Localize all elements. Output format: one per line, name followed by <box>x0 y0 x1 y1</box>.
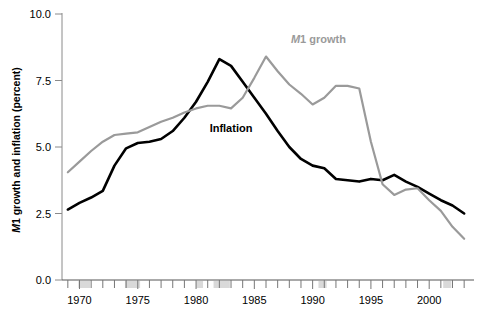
y-tick-label: 5.0 <box>36 141 51 153</box>
line-chart: 0.02.55.07.510.0 19701975198019851990199… <box>0 0 494 322</box>
x-tick-label: 1980 <box>184 294 208 306</box>
plot-axes <box>62 13 474 280</box>
recession-band <box>196 281 203 288</box>
recession-band <box>318 281 326 288</box>
x-tick-label: 1985 <box>242 294 266 306</box>
x-tick-label: 1990 <box>300 294 324 306</box>
x-tick-label: 2000 <box>417 294 441 306</box>
chart-container: 0.02.55.07.510.0 19701975198019851990199… <box>0 0 494 322</box>
y-axis-ticks <box>55 14 62 280</box>
y-axis-title: M1 growth and inflation (percent) <box>10 67 22 233</box>
x-tick-label: 1970 <box>67 294 91 306</box>
series-annotations: InflationM1 growth <box>210 33 347 134</box>
recession-band <box>443 281 451 288</box>
m1-growth-label: M1 growth <box>291 33 346 45</box>
y-axis-tick-labels: 0.02.55.07.510.0 <box>30 8 51 286</box>
x-tick-label: 1995 <box>359 294 383 306</box>
y-tick-label: 0.0 <box>36 274 51 286</box>
recession-bands <box>78 281 451 288</box>
inflation-label: Inflation <box>210 122 253 134</box>
y-tick-label: 7.5 <box>36 75 51 87</box>
x-axis-tick-labels: 1970197519801985199019952000 <box>67 294 441 306</box>
data-series-group <box>68 57 464 239</box>
x-tick-label: 1975 <box>126 294 150 306</box>
svg-text:M1 growth and inflation (perce: M1 growth and inflation (percent) <box>10 67 22 233</box>
y-tick-label: 2.5 <box>36 208 51 220</box>
recession-band <box>214 281 230 288</box>
recession-band <box>78 281 90 288</box>
y-tick-label: 10.0 <box>30 8 51 20</box>
